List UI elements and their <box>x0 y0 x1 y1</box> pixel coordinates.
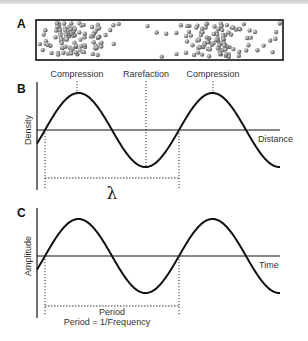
density-axis-label: Density <box>23 114 33 145</box>
period-formula: Period = 1/Frequency <box>64 317 151 327</box>
panel-c-label: C <box>17 206 26 220</box>
panel-a-label: A <box>17 17 26 31</box>
rarefaction-label: Rarefaction <box>123 69 169 79</box>
wave-diagram: A B Compression Rarefaction Compression … <box>0 0 308 341</box>
amplitude-axis-label: Amplitude <box>23 236 33 276</box>
compression-label-1: Compression <box>50 69 103 79</box>
lambda-label: λ <box>107 183 118 203</box>
panel-b-label: B <box>17 82 26 96</box>
particle-field <box>38 21 282 59</box>
period-label: Period <box>99 307 125 317</box>
time-axis-label: Time <box>259 260 279 270</box>
compression-label-2: Compression <box>186 69 239 79</box>
distance-axis-label: Distance <box>258 134 293 144</box>
